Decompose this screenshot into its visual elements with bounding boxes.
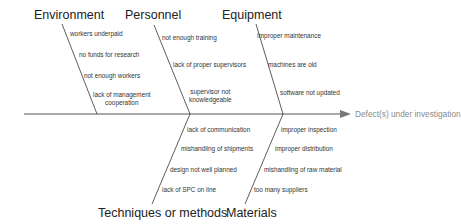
cause-environment-4: lack of management cooperation: [93, 91, 151, 107]
cause-environment-2: no funds for research: [79, 51, 139, 59]
effect-label: Defect(s) under investigation: [355, 110, 461, 118]
category-environment: Environment: [34, 9, 104, 22]
cause-environment-4-line1: lack of management: [93, 91, 151, 99]
cause-materials-2: improper distribution: [275, 145, 333, 153]
cause-materials-1: improper inspection: [281, 126, 337, 134]
cause-materials-4: too many suppliers: [254, 186, 308, 194]
cause-techniques-2: mishandling of shipments: [181, 145, 253, 153]
category-materials: Materials: [226, 207, 277, 220]
arrow-head-icon: [340, 110, 351, 118]
cause-equipment-2: machines are old: [268, 61, 317, 69]
cause-environment-3: not enough workers: [84, 72, 140, 80]
cause-techniques-1: lack of communication: [187, 126, 250, 134]
cause-equipment-3: software not updated: [280, 89, 340, 97]
cause-personnel-3: supervisor not knowledgeable: [189, 88, 232, 104]
cause-environment-4-line2: cooperation: [93, 99, 151, 107]
cause-techniques-3: design not well planned: [170, 166, 237, 174]
cause-materials-3: mishandling of raw material: [264, 166, 342, 174]
cause-personnel-3-line2: knowledgeable: [189, 96, 232, 104]
cause-personnel-1: not enough training: [162, 34, 217, 42]
cause-personnel-2: lack of proper supervisors: [173, 61, 246, 69]
category-personnel: Personnel: [125, 9, 181, 22]
category-techniques: Techniques or methods: [98, 207, 227, 220]
category-equipment: Equipment: [222, 9, 282, 22]
cause-equipment-1: Improper maintenance: [257, 32, 321, 40]
cause-personnel-3-line1: supervisor not: [189, 88, 232, 96]
cause-techniques-4: lack of SPC on line: [162, 186, 216, 194]
cause-environment-1: workers underpaid: [70, 30, 123, 38]
